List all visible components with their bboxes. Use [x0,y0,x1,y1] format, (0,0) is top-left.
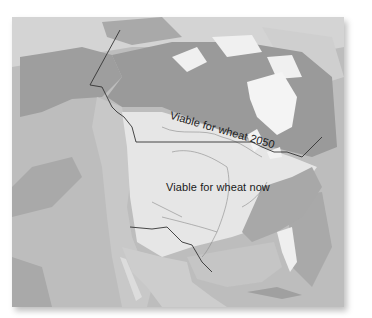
label-viable-wheat-now: Viable for wheat now [166,181,270,193]
map-canvas [12,17,344,307]
wheat-viability-map: Viable for wheat 2050 Viable for wheat n… [12,17,344,307]
